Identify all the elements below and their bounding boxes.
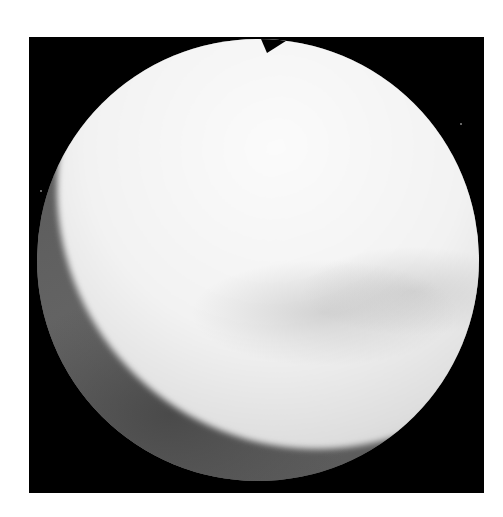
image-frame (29, 37, 484, 493)
speck (40, 190, 42, 192)
speck (460, 123, 462, 125)
circular-viewport (37, 39, 479, 481)
orientation-notch (261, 39, 289, 53)
